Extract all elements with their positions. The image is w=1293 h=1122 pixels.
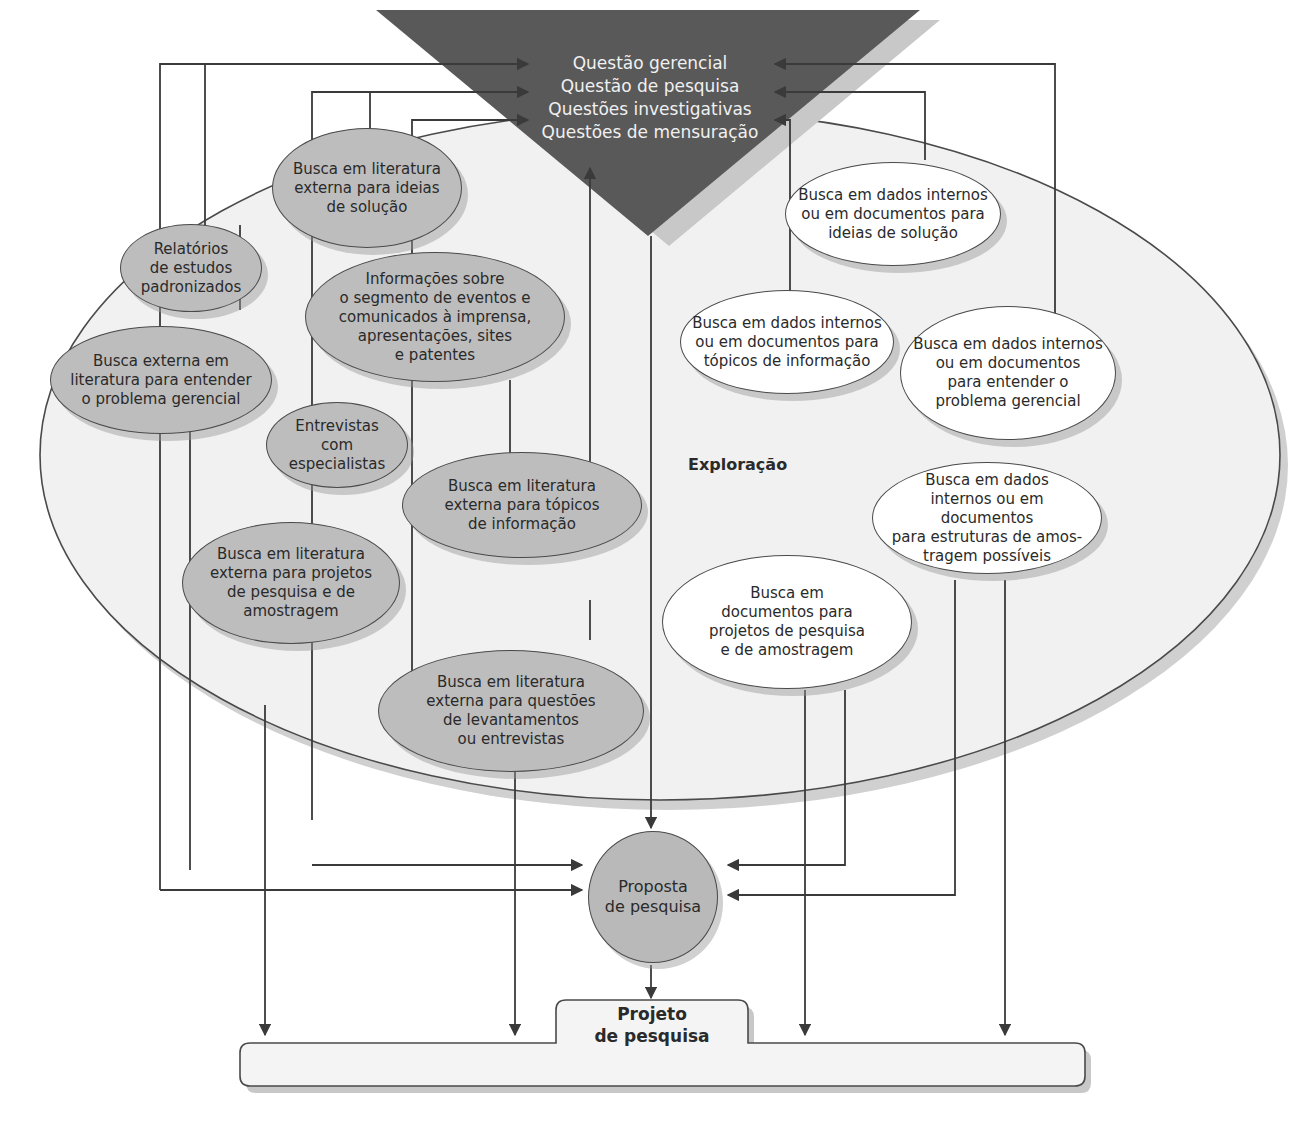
node-internal-managerial-problem: Busca em dados internos ou em documentos… — [900, 306, 1116, 440]
node-external-literature-solution-ideas: Busca em literatura externa para ideias … — [272, 128, 462, 248]
node-industry-information: Informações sobre o segmento de eventos … — [305, 252, 565, 382]
questions-list: Questão gerencial Questão de pesquisa Qu… — [500, 52, 800, 144]
exploration-label: Exploração — [688, 455, 787, 474]
research-process-diagram: Questão gerencial Questão de pesquisa Qu… — [0, 0, 1293, 1122]
node-documents-research-designs: Busca em documentos para projetos de pes… — [662, 555, 912, 689]
question-research: Questão de pesquisa — [561, 76, 740, 96]
question-measurement: Questões de mensuração — [542, 122, 759, 142]
research-design-label: Projeto de pesquisa — [560, 1003, 744, 1047]
node-internal-solution-ideas: Busca em dados internos ou em documentos… — [785, 162, 1001, 266]
node-external-literature-research-designs: Busca em literatura externa para projeto… — [182, 522, 400, 644]
node-external-literature-survey-questions: Busca em literatura externa para questõe… — [378, 650, 644, 772]
question-investigative: Questões investigativas — [548, 99, 751, 119]
question-managerial: Questão gerencial — [573, 53, 728, 73]
node-expert-interviews: Entrevistas com especialistas — [266, 402, 408, 488]
node-internal-sampling-frames: Busca em dados internos ou em documentos… — [872, 462, 1102, 574]
node-standardized-study-reports: Relatórios de estudos padronizados — [120, 224, 262, 312]
research-proposal-node: Proposta de pesquisa — [588, 831, 718, 963]
node-external-literature-managerial-problem: Busca externa em literatura para entende… — [50, 326, 272, 434]
node-external-literature-info-topics: Busca em literatura externa para tópicos… — [402, 452, 642, 558]
node-internal-info-topics: Busca em dados internos ou em documentos… — [680, 290, 894, 394]
